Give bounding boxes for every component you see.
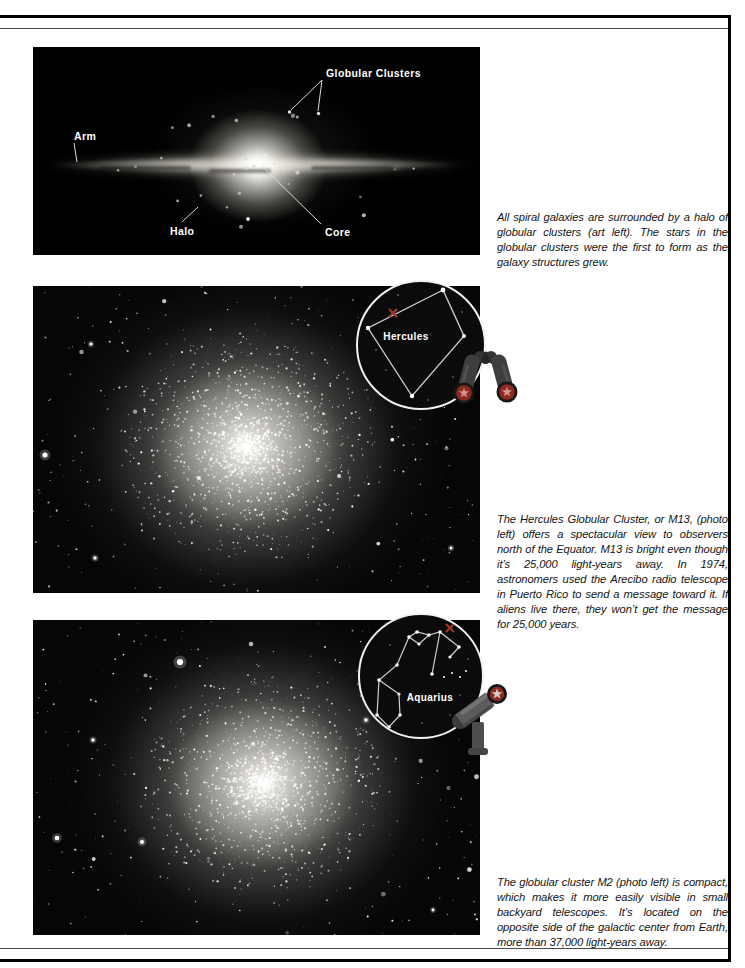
binoculars-icon [447, 347, 523, 413]
hercules-label: Hercules [383, 331, 428, 342]
caption-galaxy: All spiral galaxies are surrounded by a … [497, 210, 728, 270]
right-rule [728, 15, 731, 962]
top-rule-thin [0, 28, 728, 29]
m2-marker-x-icon [446, 624, 454, 632]
galaxy-annotations: Globular Clusters Arm Halo Core [33, 47, 480, 255]
label-halo: Halo [170, 225, 194, 237]
top-rule-thick [0, 15, 731, 18]
galaxy-art-panel: Globular Clusters Arm Halo Core [33, 47, 480, 255]
caption-m2: The globular cluster M2 (photo left) is … [497, 875, 728, 950]
label-arm: Arm [74, 130, 96, 142]
label-globular-clusters: Globular Clusters [326, 67, 421, 79]
telescope-icon [446, 664, 518, 760]
label-core: Core [325, 226, 351, 238]
art-globular-dots [117, 114, 415, 229]
bottom-rule-thick [0, 959, 731, 962]
pointer-lines [74, 80, 322, 224]
caption-m13: The Hercules Globular Cluster, or M13, (… [497, 512, 728, 632]
page: Globular Clusters Arm Halo Core [0, 0, 745, 968]
